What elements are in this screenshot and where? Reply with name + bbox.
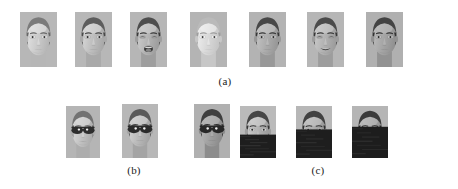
figure-container: (a)(b)(c) — [0, 0, 458, 189]
face-occluded-3 — [352, 106, 388, 158]
face-occluded-2 — [296, 106, 332, 158]
panel-c: (c) — [0, 0, 458, 189]
face-occluded-1 — [240, 106, 276, 158]
panel-caption-c: (c) — [298, 164, 338, 176]
